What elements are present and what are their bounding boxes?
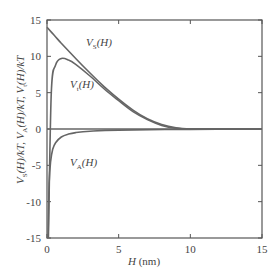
y-tick-label: 5 <box>36 87 42 99</box>
y-tick-label: -15 <box>26 232 41 244</box>
curve-v-a-h- <box>48 129 262 238</box>
label-vt: Vt(H) <box>70 78 94 93</box>
x-axis-title: H (nm) <box>127 255 160 268</box>
y-tick-label: -5 <box>32 159 42 171</box>
y-tick-label: 15 <box>30 14 42 26</box>
data-curves <box>47 27 262 238</box>
y-axis-title: VS(H)/kT, VA(H)/kT, Vt(H)/kT <box>14 55 29 184</box>
y-tick-label: 10 <box>30 50 42 62</box>
y-tick-label: -10 <box>26 196 41 208</box>
x-tick-label: 5 <box>116 243 122 255</box>
x-tick-label: 10 <box>185 243 197 255</box>
x-tick-label: 15 <box>257 243 269 255</box>
x-tick-label: 0 <box>44 243 50 255</box>
axis-ticks: 051015-15-10-5051015 <box>26 14 268 255</box>
label-vs: VS(H) <box>86 36 112 51</box>
label-va: VA(H) <box>70 156 97 171</box>
potential-energy-chart: 051015-15-10-5051015 VS(H) Vt(H) VA(H) H… <box>0 0 272 270</box>
y-tick-label: 0 <box>36 123 42 135</box>
